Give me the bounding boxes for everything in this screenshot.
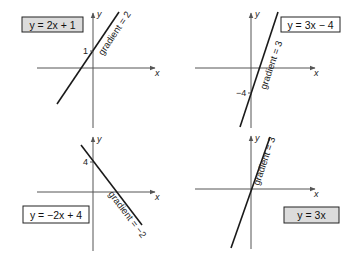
x-axis-label: x: [154, 192, 160, 202]
y-axis-label: y: [254, 9, 260, 19]
equation-label: y = 3x − 4: [287, 19, 333, 31]
x-axis-label: x: [313, 68, 319, 78]
x-axis-label: x: [154, 68, 160, 78]
y-intercept-label: 4: [83, 157, 88, 167]
gradient-label: gradient = 3: [250, 135, 277, 186]
graph-y-2x-plus-1: x y 1 gradient = 2 y = 2x + 1: [22, 9, 160, 128]
equation-label-box: y = 3x − 4: [281, 17, 340, 32]
y-intercept-label: −4: [236, 88, 246, 98]
graph-y-3x: x y gradient = 3 y = 3x: [195, 133, 339, 249]
linear-graphs-diagram: x y 1 gradient = 2 y = 2x + 1 x y −4 gra…: [0, 0, 358, 262]
equation-label: y = −2x + 4: [30, 209, 82, 221]
equation-label-box: y = −2x + 4: [23, 206, 89, 223]
equation-label: y = 3x: [297, 209, 326, 221]
graph-y-3x-minus-4: x y −4 gradient = 3 y = 3x − 4: [195, 9, 340, 128]
y-axis-label: y: [96, 9, 102, 19]
x-axis-label: x: [313, 189, 319, 199]
equation-label-box: y = 2x + 1: [22, 17, 83, 32]
equation-label: y = 2x + 1: [29, 19, 75, 31]
y-intercept-label: 1: [83, 46, 88, 56]
graph-y-neg2x-plus-4: x y 4 gradient = −2 y = −2x + 4: [23, 134, 160, 251]
y-axis-label: y: [254, 133, 260, 143]
equation-label-box: y = 3x: [284, 207, 339, 223]
gradient-label: gradient = 3: [257, 39, 284, 90]
y-axis-label: y: [96, 134, 102, 144]
gradient-label: gradient = −2: [106, 189, 148, 240]
